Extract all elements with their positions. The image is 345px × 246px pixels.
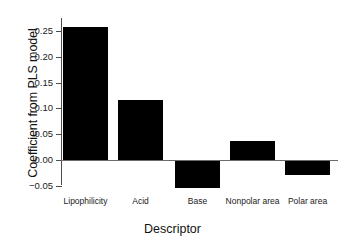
y-tick-mark <box>56 83 62 84</box>
y-tick-label: 0.25 <box>7 26 53 36</box>
bar <box>63 27 108 160</box>
x-axis-title: Descriptor <box>0 222 345 236</box>
x-category-label: Polar area <box>268 196 345 206</box>
y-tick-mark <box>56 31 62 32</box>
bar-chart: Coefficient from PLS model 0.250.200.150… <box>0 0 345 246</box>
y-tick-label: 0.10 <box>7 103 53 113</box>
y-tick-label: 0.15 <box>7 78 53 88</box>
bar <box>230 141 275 160</box>
zero-baseline <box>61 160 338 161</box>
y-tick-mark <box>56 134 62 135</box>
y-tick-label: 0.05 <box>7 129 53 139</box>
y-tick-label: 0.20 <box>7 52 53 62</box>
y-tick-mark <box>56 57 62 58</box>
y-tick-mark <box>56 108 62 109</box>
y-tick-mark <box>56 186 62 187</box>
bar <box>175 160 220 188</box>
bar <box>118 100 163 160</box>
bar <box>285 160 330 175</box>
y-tick-label: −0.05 <box>7 181 53 191</box>
y-tick-label: 0.00 <box>7 155 53 165</box>
